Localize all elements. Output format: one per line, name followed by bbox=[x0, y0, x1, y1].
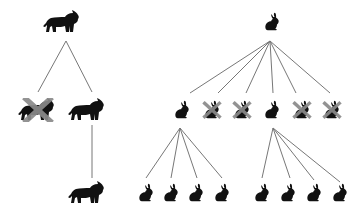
rabbit-icon bbox=[278, 182, 298, 204]
rabbit-level2-node bbox=[202, 99, 222, 121]
rabbit-level3-node bbox=[304, 182, 324, 204]
rabbit-icon bbox=[262, 99, 282, 121]
rabbit-level3-node bbox=[136, 182, 156, 204]
rabbit-level2-node bbox=[322, 99, 342, 121]
rabbit-level3-node bbox=[252, 182, 272, 204]
rabbit-icon bbox=[161, 182, 181, 204]
rabbit-icon bbox=[330, 182, 350, 204]
rabbit-icon bbox=[252, 182, 272, 204]
rabbit-icon bbox=[304, 182, 324, 204]
rabbit-level2-node bbox=[292, 99, 312, 121]
rabbit-icon bbox=[262, 11, 282, 33]
lion-icon bbox=[68, 181, 108, 205]
rabbit-level3-node bbox=[161, 182, 181, 204]
rabbit-icon bbox=[172, 99, 192, 121]
rabbit-icon bbox=[186, 182, 206, 204]
lion-icon bbox=[43, 10, 83, 34]
rabbit-level2-node bbox=[172, 99, 192, 121]
rabbit-level3-node bbox=[186, 182, 206, 204]
rabbit-level2-node bbox=[232, 99, 252, 121]
rabbit-icon bbox=[212, 182, 232, 204]
rabbit-level3-node bbox=[330, 182, 350, 204]
lion-root bbox=[43, 10, 83, 34]
rabbit-level2-node bbox=[262, 99, 282, 121]
rabbit-root bbox=[262, 11, 282, 33]
lion-level3-node bbox=[68, 181, 108, 205]
rabbit-level3-node bbox=[212, 182, 232, 204]
rabbit-level3-node bbox=[278, 182, 298, 204]
lion-icon bbox=[68, 98, 108, 122]
rabbit-icon bbox=[136, 182, 156, 204]
lion-level2-node bbox=[68, 98, 108, 122]
lion-level2-node bbox=[18, 98, 58, 122]
